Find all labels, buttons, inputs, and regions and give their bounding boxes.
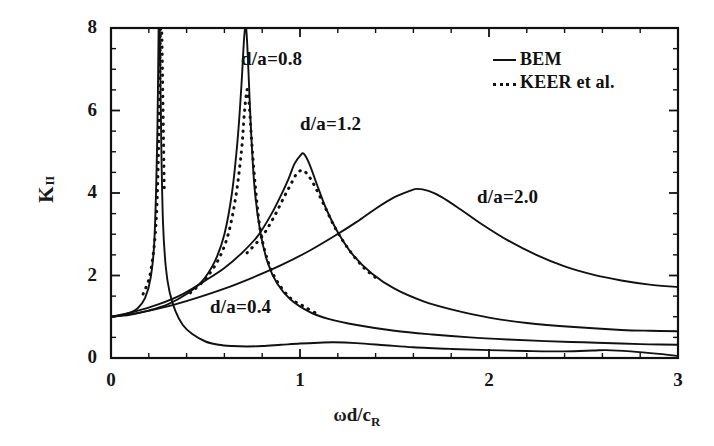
chart-legend: BEMKEER et al. [492, 48, 615, 94]
x-axis-tick-label: 2 [459, 370, 519, 389]
curve-label-ann-08: d/a=0.8 [241, 48, 302, 70]
x-axis-title-subscript: R [371, 414, 380, 429]
y-axis-tick-label: 2 [53, 265, 97, 284]
dotted-line-icon [492, 76, 518, 90]
x-axis-title-omega: ω [334, 405, 347, 425]
y-axis-title: KII [24, 160, 68, 220]
figure-container: 02468 0123 KII ωd/cR BEMKEER et al. d/a=… [0, 0, 714, 446]
y-axis-tick-label: 8 [53, 17, 97, 36]
legend-entry: BEM [492, 48, 615, 71]
legend-entry-label: BEM [520, 48, 562, 71]
chart-series-line [111, 153, 678, 331]
y-axis-title-subscript: II [42, 176, 58, 185]
chart-series-line [111, 189, 678, 317]
x-axis-tick-label: 1 [270, 370, 330, 389]
solid-line-icon [492, 53, 518, 67]
y-axis-tick-label: 6 [53, 100, 97, 119]
chart-series-line [247, 170, 379, 280]
x-axis-tick-label: 0 [81, 370, 141, 389]
curve-label-ann-12: d/a=1.2 [300, 113, 361, 135]
legend-entry-label: KEER et al. [520, 71, 615, 94]
curve-label-ann-04: d/a=0.4 [210, 296, 271, 318]
x-axis-tick-label: 3 [648, 370, 708, 389]
x-axis-title-middle: d/c [347, 404, 371, 425]
y-axis-tick-label: 0 [53, 347, 97, 366]
legend-entry: KEER et al. [492, 71, 615, 94]
x-axis-title: ωd/cR [0, 404, 714, 426]
y-axis-title-main: K [34, 186, 59, 202]
curve-label-ann-20: d/a=2.0 [477, 186, 538, 208]
